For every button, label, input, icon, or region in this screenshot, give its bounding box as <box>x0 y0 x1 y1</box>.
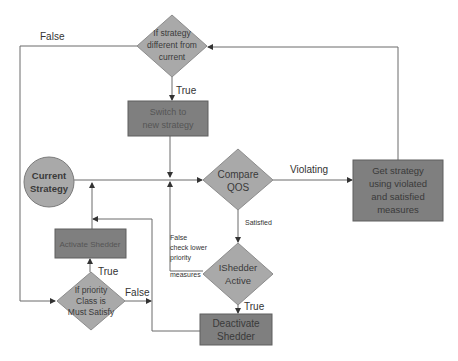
label-shedder-false-3: measures <box>170 271 201 278</box>
edge-get-to-strategy-check <box>208 47 398 160</box>
svg-text:Switch to: Switch to <box>150 107 187 117</box>
priority-check-diamond: If priority Class is Must Satisfy <box>57 272 125 330</box>
get-strategy-box: Get strategy using violated and satisfie… <box>353 160 443 221</box>
svg-text:IShedder: IShedder <box>219 262 258 273</box>
label-shedder-false-1: check lower <box>170 244 208 251</box>
label-priority-false: False <box>125 287 150 298</box>
svg-text:measures: measures <box>377 204 419 215</box>
svg-text:Strategy: Strategy <box>30 183 69 194</box>
svg-text:Activate Shedder: Activate Shedder <box>60 240 121 249</box>
svg-text:new strategy: new strategy <box>142 120 194 130</box>
strategy-check-diamond: If strategy different from current <box>137 15 207 77</box>
svg-text:Deactivate: Deactivate <box>212 318 260 329</box>
svg-text:Shedder: Shedder <box>217 331 255 342</box>
svg-text:current: current <box>159 52 186 62</box>
svg-text:Class is: Class is <box>76 296 106 306</box>
svg-text:Current: Current <box>32 170 67 181</box>
deactivate-shedder-box: Deactivate Shedder <box>200 314 272 345</box>
current-strategy-circle: Current Strategy <box>24 157 74 207</box>
activate-shedder-box: Activate Shedder <box>55 229 126 258</box>
switch-strategy-box: Switch to new strategy <box>128 101 208 136</box>
svg-text:If priority: If priority <box>75 285 108 295</box>
svg-text:Get strategy: Get strategy <box>372 165 424 176</box>
svg-text:If strategy: If strategy <box>153 28 191 38</box>
svg-text:and satisfied: and satisfied <box>371 191 424 202</box>
svg-text:Must Satisfy: Must Satisfy <box>68 307 115 317</box>
label-shedder-true: True <box>244 301 265 312</box>
label-shedder-false-2: priority <box>170 254 192 262</box>
svg-text:using violated: using violated <box>369 178 427 189</box>
label-violating: Violating <box>290 164 328 175</box>
compare-qos-diamond: Compare QOS <box>203 149 273 210</box>
label-strategy-true: True <box>176 85 197 96</box>
label-priority-true: True <box>98 266 119 277</box>
label-shedder-false-0: False <box>170 234 187 241</box>
svg-text:different from: different from <box>147 40 197 50</box>
shedder-active-diamond: IShedder Active <box>203 243 273 305</box>
flowchart: If strategy different from current Switc… <box>0 0 458 361</box>
svg-text:Compare: Compare <box>217 169 259 180</box>
label-strategy-false: False <box>40 31 65 42</box>
label-satisfied: Satisfied <box>245 219 272 226</box>
svg-text:QOS: QOS <box>227 182 250 193</box>
svg-text:Active: Active <box>225 275 251 286</box>
